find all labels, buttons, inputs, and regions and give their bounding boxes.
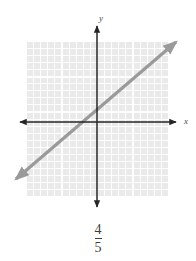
fraction-bar [95, 238, 102, 239]
answer-fraction: 4 5 [0, 222, 196, 256]
fraction-stack: 4 5 [95, 222, 102, 255]
x-axis-label: x [184, 117, 188, 126]
plotted-line [16, 42, 176, 179]
fraction-denominator: 5 [95, 240, 102, 255]
graph-figure: y x 4 5 [0, 0, 196, 261]
fraction-numerator: 4 [95, 222, 102, 237]
y-axis-label: y [99, 14, 103, 23]
